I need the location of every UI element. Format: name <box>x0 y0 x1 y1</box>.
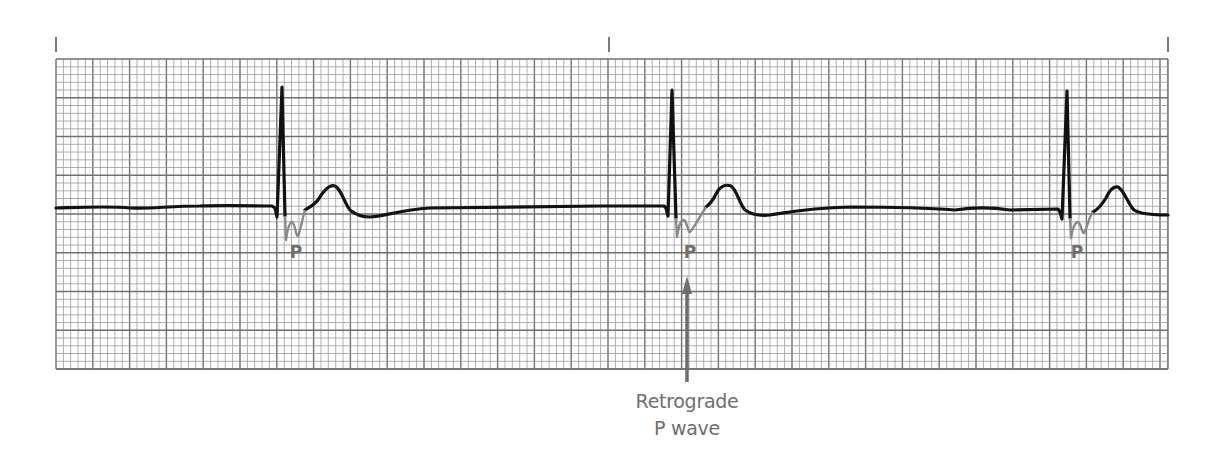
ecg-grid-paper <box>56 59 1168 369</box>
retrograde-p-wave-annotation: Retrograde P wave <box>607 388 767 442</box>
annotation-line-2: P wave <box>607 415 767 442</box>
ecg-trace <box>56 87 1168 219</box>
p-wave-label: P <box>684 242 696 262</box>
arrow-icon <box>682 276 692 382</box>
time-markers <box>56 37 1168 52</box>
annotation-line-1: Retrograde <box>607 388 767 415</box>
p-wave-label: P <box>1071 242 1083 262</box>
p-wave-label: P <box>290 242 302 262</box>
retrograde-p-wave-3 <box>1070 212 1093 238</box>
